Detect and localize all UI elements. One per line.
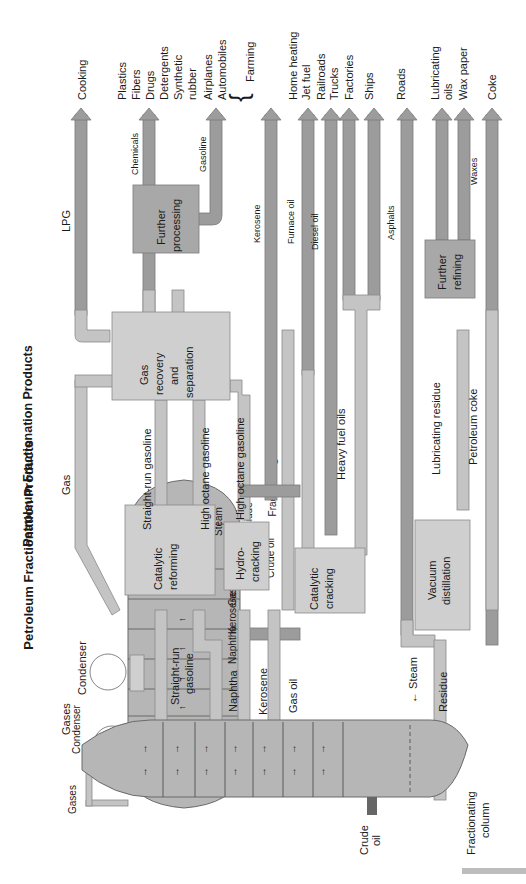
end-use-drugs: Drugs [144,70,156,100]
stream-gasoline: Gasoline [198,136,208,172]
label-column: column [479,803,491,838]
end-use-wax-paper: Wax paper [457,47,469,100]
stream-high-octane-gasoline-2: High octane gasoline [234,417,246,520]
end-use-farming: Farming [244,42,256,82]
stream-petroleum-coke: Petroleum coke [467,389,479,465]
label-condenser: Condenser [76,641,88,695]
scroll-indicator [462,868,526,874]
end-use-factories: Factories [343,54,355,100]
label-gas-recovery-1: Gas [138,364,150,385]
end-use-automobiles: Automobiles [216,39,228,100]
svg-text:↑: ↑ [175,743,180,754]
end-use-roads: Roads [395,68,407,100]
label-crude: Crude [358,825,370,855]
end-use-railroads: Railroads [315,53,327,100]
label-catalytic-cracking-1: Catalytic [308,567,320,610]
end-use-airplanes: Airplanes [202,54,214,100]
gas-recovery-box [112,312,230,400]
end-use-detergents: Detergents [158,46,170,100]
hydrocracking-box [224,522,269,590]
svg-text:↑: ↑ [204,743,209,754]
label-straight-run-1: Straight-run [169,648,181,705]
label-catalytic-cracking-2: cracking [323,568,335,609]
stream-waxes: Waxes [469,157,479,185]
label-steam: ← Steam [407,657,419,703]
end-use-fibers: Fibers [130,69,142,100]
end-use-coke: Coke [486,74,498,100]
label-oil: oil [370,835,382,846]
end-use-jet-fuel: Jet fuel [300,65,312,100]
svg-text:↑: ↑ [233,743,238,754]
stream-lubricating-residue: Lubricating residue [430,382,442,475]
stream-gas: Gas [60,474,72,495]
process-layer: Petroleum Fractionation Products Cooking… [0,0,526,884]
label-kerosene: Kerosene [257,668,269,715]
condenser-circle [90,654,126,690]
end-use-synthetic: Synthetic [172,54,184,100]
end-use-ships: Ships [363,72,375,100]
svg-text:↑: ↑ [233,766,238,777]
label-vacuum-distillation-2: distillation [440,557,452,605]
label-gas-recovery-4: separation [183,347,195,398]
title-label: Petroleum Fractionation Products [21,440,36,649]
svg-text:↑: ↑ [143,766,148,777]
stream-heavy-fuel-oils: Heavy fuel oils [335,408,347,480]
stream-diesel-oil: Diesel oil [310,213,320,250]
stream-straight-run-gasoline: Straight-run gasoline [141,428,153,530]
condenser-unit [130,655,144,691]
label-gas-oil: Gas oil [287,679,299,713]
svg-text:↑: ↑ [262,766,267,777]
end-use-rubber: rubber [186,68,198,100]
end-use-cooking: Cooking [76,60,88,100]
label-residue: Residue [437,672,449,712]
brace-icon: { [224,93,254,102]
end-use-trucks: Trucks [328,67,340,100]
label-catalytic-reforming-1: Catalytic [152,547,164,590]
label-gases: Gases [60,703,72,735]
label-hydrocracking-1: Hydro- [234,547,246,580]
svg-text:↑: ↑ [204,766,209,777]
label-catalytic-reforming-2: reforming [167,544,179,590]
label-further-processing-2: processing [170,199,182,252]
svg-text:↑: ↑ [175,766,180,777]
stream-high-octane-gasoline-1: High octane gasoline [199,427,211,530]
label-fractionating: Fractionating [465,791,477,855]
stream-lpg: LPG [60,210,72,232]
label-naphtha: Naphtha [227,670,239,712]
stream-furnace-oil: Furnace oil [286,199,296,244]
label-further-processing-1: Further [155,209,167,245]
end-use-lubricating: Lubricating [429,46,441,100]
label-straight-run-2: gasoline [183,653,195,694]
end-use-plastics: Plastics [116,62,128,100]
further-refining-box [425,240,475,298]
svg-text:↑: ↑ [292,743,297,754]
label-gas-recovery-2: recovery [153,352,165,395]
svg-text:↑: ↑ [321,766,326,777]
svg-text:↑: ↑ [321,743,326,754]
stream-asphalts: Asphalts [386,205,396,240]
stream-kerosene: Kerosene [252,204,262,243]
svg-text:↑: ↑ [262,743,267,754]
svg-text:↑: ↑ [143,743,148,754]
label-hydrocracking-2: cracking [249,541,261,582]
end-use-oils: oils [442,83,454,100]
label-further-refining-1: Further [436,254,448,290]
end-use-home-heating: Home heating [287,32,299,101]
label-gas-recovery-3: and [168,367,180,385]
label-further-refining-2: refining [451,254,463,290]
label-vacuum-distillation-1: Vacuum [426,560,438,600]
crude-oil-inlet [367,797,377,815]
svg-text:↑: ↑ [292,766,297,777]
stream-chemicals: Chemicals [130,132,140,175]
